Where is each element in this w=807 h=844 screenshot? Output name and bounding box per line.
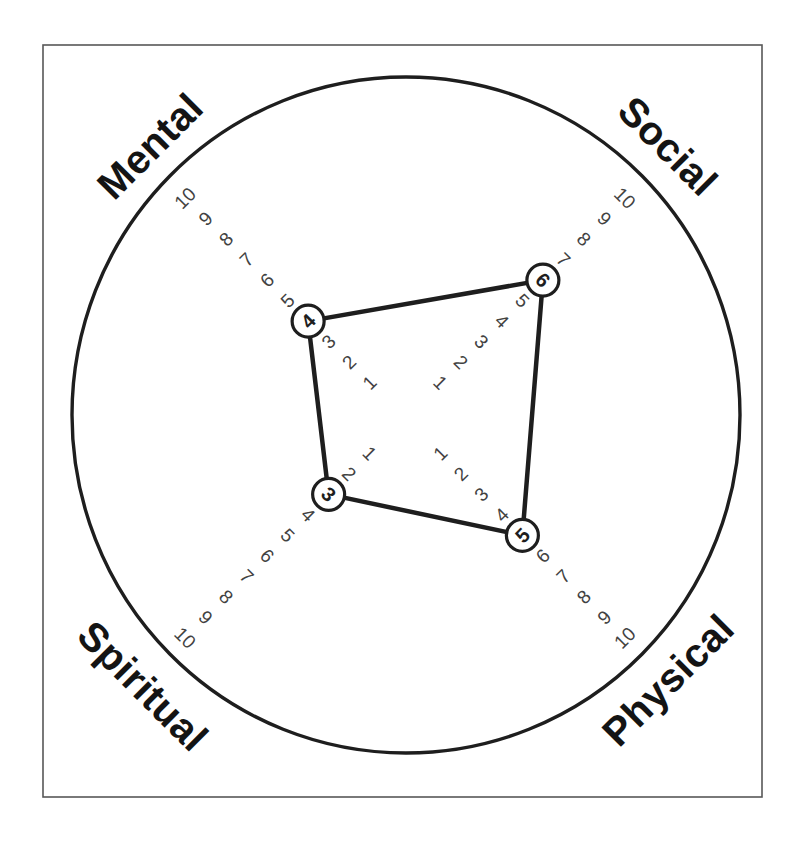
tick-physical-8: 8 [573, 586, 595, 608]
tick-social-10: 10 [610, 183, 640, 213]
tick-spiritual-1: 1 [358, 442, 380, 464]
tick-physical-9: 9 [593, 606, 615, 628]
tick-spiritual-9: 9 [194, 606, 216, 628]
tick-mental-9: 9 [194, 207, 216, 229]
tick-physical-3: 3 [470, 483, 492, 505]
tick-mental-6: 6 [256, 269, 278, 291]
tick-mental-5: 5 [276, 289, 298, 311]
tick-mental-3: 3 [317, 330, 339, 352]
tick-physical-4: 4 [491, 503, 514, 526]
tick-spiritual-6: 6 [256, 545, 278, 567]
tick-mental-8: 8 [215, 228, 237, 250]
tick-physical-10: 10 [610, 623, 640, 653]
tick-physical-2: 2 [450, 463, 472, 485]
tick-physical-1: 1 [429, 442, 451, 464]
tick-social-9: 9 [593, 207, 615, 229]
tick-mental-7: 7 [235, 248, 257, 270]
tick-spiritual-7: 7 [235, 565, 257, 587]
tick-social-7: 7 [552, 248, 574, 270]
tick-social-4: 4 [491, 310, 514, 333]
tick-social-5: 5 [511, 289, 533, 311]
axis-label-mental: Mental [89, 85, 212, 208]
axis-tick-labels: 1235678910123457891012346789101245678910 [170, 183, 640, 653]
scanned-page: 1235678910123457891012346789101245678910… [0, 0, 807, 844]
wheel-of-life-radar-chart: 1235678910123457891012346789101245678910… [0, 0, 807, 844]
tick-spiritual-8: 8 [215, 586, 237, 608]
axis-labels: MentalSocialPhysicalSpiritual [69, 85, 742, 760]
tick-mental-10: 10 [170, 183, 200, 213]
tick-spiritual-2: 2 [338, 463, 360, 485]
tick-physical-7: 7 [552, 565, 574, 587]
tick-social-8: 8 [573, 228, 595, 250]
tick-mental-2: 2 [338, 351, 360, 373]
tick-social-3: 3 [470, 330, 492, 352]
tick-mental-1: 1 [358, 371, 380, 393]
tick-physical-6: 6 [532, 545, 554, 567]
tick-social-1: 1 [429, 371, 451, 393]
tick-spiritual-5: 5 [276, 524, 298, 546]
tick-spiritual-10: 10 [170, 623, 200, 653]
tick-spiritual-4: 4 [297, 504, 320, 527]
tick-social-2: 2 [450, 351, 472, 373]
outer-ring [72, 77, 740, 753]
